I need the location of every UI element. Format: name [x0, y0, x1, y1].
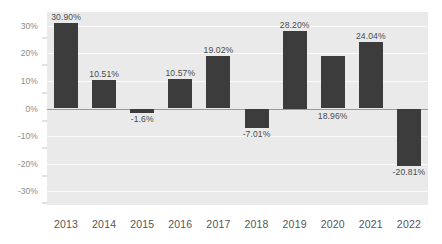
plot-area: 30.90%10.51%-1.6%10.57%19.02%-7.01%28.20… — [47, 12, 428, 205]
y-tick-label: 30% — [21, 21, 38, 31]
y-tick-label: -30% — [18, 186, 38, 196]
x-tick-label-2017: 2017 — [199, 218, 237, 230]
gridline — [47, 26, 428, 27]
bar-value-label-2021: 24.04% — [345, 31, 397, 41]
y-tick-label: 0% — [26, 104, 39, 114]
x-tick-label-2021: 2021 — [352, 218, 390, 230]
y-axis: 30%20%10%0%-10%-20%-30% — [0, 12, 47, 205]
bar-2018[interactable] — [245, 109, 269, 128]
bar-value-label-2020: 18.96% — [307, 111, 359, 121]
gridline — [47, 191, 428, 192]
bar-chart: 30%20%10%0%-10%-20%-30% 30.90%10.51%-1.6… — [0, 0, 442, 244]
zero-line — [47, 109, 428, 110]
x-tick-label-2015: 2015 — [123, 218, 161, 230]
x-tick-label-2018: 2018 — [238, 218, 276, 230]
gridline — [47, 164, 428, 165]
y-tick-label: 20% — [21, 48, 38, 58]
bar-2014[interactable] — [92, 80, 116, 109]
bar-value-label-2018: -7.01% — [231, 129, 283, 139]
x-tick-label-2014: 2014 — [85, 218, 123, 230]
bar-value-label-2016: 10.57% — [154, 68, 206, 78]
bar-value-label-2019: 28.20% — [269, 20, 321, 30]
x-tick-label-2016: 2016 — [161, 218, 199, 230]
x-tick-label-2020: 2020 — [314, 218, 352, 230]
bar-value-label-2014: 10.51% — [78, 69, 130, 79]
bar-2017[interactable] — [206, 56, 230, 108]
bar-value-label-2017: 19.02% — [192, 45, 244, 55]
bar-2021[interactable] — [359, 42, 383, 108]
bar-value-label-2015: -1.6% — [116, 114, 168, 124]
y-tick-label: 10% — [21, 76, 38, 86]
x-tick-label-2019: 2019 — [276, 218, 314, 230]
x-tick-label-2013: 2013 — [47, 218, 85, 230]
y-tick-label: -10% — [18, 131, 38, 141]
bar-2016[interactable] — [168, 79, 192, 108]
bar-2020[interactable] — [321, 56, 345, 108]
x-axis: 2013201420152016201720182019202020212022 — [47, 205, 428, 244]
bar-2019[interactable] — [283, 31, 307, 109]
bar-2022[interactable] — [397, 109, 421, 166]
y-tick-label: -20% — [18, 159, 38, 169]
x-tick-label-2022: 2022 — [390, 218, 428, 230]
bar-2013[interactable] — [54, 23, 78, 108]
bar-2015[interactable] — [130, 109, 154, 113]
bar-value-label-2013: 30.90% — [40, 12, 92, 22]
bar-value-label-2022: -20.81% — [383, 167, 435, 177]
